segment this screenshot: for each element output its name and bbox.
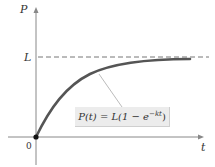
chart-canvas: [0, 0, 215, 167]
asymptote-label: L: [24, 52, 31, 63]
y-axis-arrow-icon: [34, 7, 39, 13]
formula-prefix: P(t) = L(1 − e: [78, 112, 149, 123]
origin-point: [33, 134, 38, 139]
x-axis-arrow-icon: [198, 135, 204, 140]
formula-annotation: P(t) = L(1 − e−kt): [75, 107, 170, 127]
y-axis-label: P: [20, 4, 27, 15]
formula-text: P(t) = L(1 − e−kt): [78, 110, 166, 122]
x-axis-label: t: [201, 142, 205, 153]
origin-label: 0: [26, 142, 32, 151]
formula-suffix: ): [162, 112, 166, 123]
annotation-leader: [99, 74, 122, 107]
formula-exponent: −kt: [149, 110, 162, 118]
